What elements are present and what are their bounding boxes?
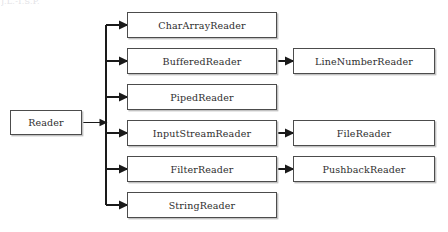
node-chararrayreader[interactable]: CharArrayReader bbox=[127, 12, 277, 38]
node-bufferedreader[interactable]: BufferedReader bbox=[127, 48, 277, 74]
node-chararrayreader-label: CharArrayReader bbox=[158, 19, 246, 30]
node-linenumberreader-label: LineNumberReader bbox=[315, 55, 413, 66]
top-edge-text-artifact: J.L.-I.S.P. bbox=[1, 0, 59, 6]
node-linenumberreader[interactable]: LineNumberReader bbox=[293, 48, 435, 74]
arrowhead-reader-trunk bbox=[100, 119, 108, 126]
node-pipedreader-label: PipedReader bbox=[170, 91, 234, 102]
node-stringreader[interactable]: StringReader bbox=[127, 192, 277, 218]
node-inputstreamreader[interactable]: InputStreamReader bbox=[127, 120, 277, 146]
node-reader[interactable]: Reader bbox=[10, 110, 82, 135]
node-pipedreader[interactable]: PipedReader bbox=[127, 84, 277, 110]
node-reader-label: Reader bbox=[28, 117, 64, 128]
node-filterreader-label: FilterReader bbox=[170, 163, 233, 174]
node-filereader-label: FileReader bbox=[337, 127, 391, 138]
node-filereader[interactable]: FileReader bbox=[293, 120, 435, 146]
node-pushbackreader-label: PushbackReader bbox=[322, 163, 405, 174]
diagram-canvas: J.L.-I.S.P. bbox=[0, 0, 448, 232]
node-inputstreamreader-label: InputStreamReader bbox=[153, 127, 251, 138]
node-bufferedreader-label: BufferedReader bbox=[163, 55, 242, 66]
node-filterreader[interactable]: FilterReader bbox=[127, 156, 277, 182]
node-stringreader-label: StringReader bbox=[169, 199, 236, 210]
node-pushbackreader[interactable]: PushbackReader bbox=[293, 156, 435, 182]
